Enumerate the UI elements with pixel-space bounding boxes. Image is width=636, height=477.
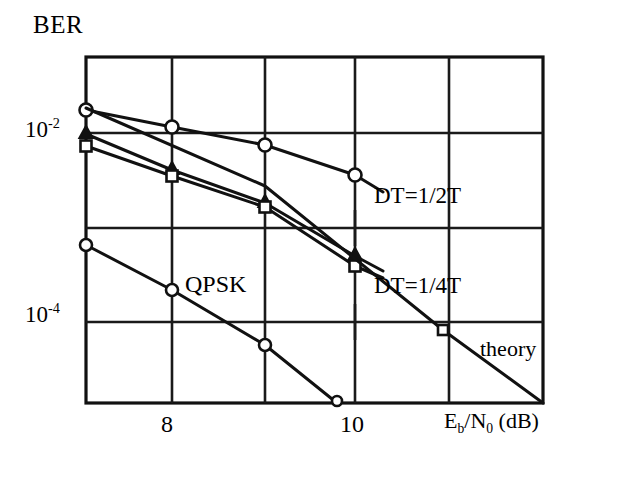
data-point-marker bbox=[167, 171, 178, 182]
x-tick-label-10: 10 bbox=[340, 412, 364, 436]
y-tick-label-1e-4: 10-4 bbox=[25, 303, 60, 326]
plot-canvas bbox=[0, 0, 636, 477]
y-tick-base: 10 bbox=[25, 302, 48, 327]
annotation-qpsk: QPSK bbox=[185, 272, 246, 296]
annotation-dt-half: DT=1/2T bbox=[374, 184, 461, 207]
data-point-marker bbox=[349, 169, 362, 182]
x-axis-title: Eb/N0 (dB) bbox=[444, 410, 539, 432]
series-line-theory bbox=[86, 108, 543, 403]
x-axis-title-slash-n: /N bbox=[464, 408, 486, 433]
y-tick-exponent: -2 bbox=[48, 115, 60, 131]
plot-frame bbox=[86, 57, 543, 403]
ber-chart-figure: BER 10-2 10-4 8 10 Eb/N0 (dB) DT=1/2T DT… bbox=[0, 0, 636, 477]
y-tick-base: 10 bbox=[25, 117, 48, 142]
annotation-dt-quarter: DT=1/4T bbox=[374, 274, 461, 297]
data-point-marker bbox=[81, 141, 92, 152]
series-line-dt-half bbox=[86, 110, 383, 192]
series-line-qpsk bbox=[86, 245, 337, 403]
y-tick-label-1e-2: 10-2 bbox=[25, 118, 60, 141]
y-tick-exponent: -4 bbox=[48, 300, 60, 316]
data-point-marker bbox=[80, 239, 92, 251]
data-point-marker bbox=[166, 284, 178, 296]
series-line-dt-quarter-sq bbox=[86, 146, 383, 278]
x-axis-title-e: E bbox=[444, 408, 457, 433]
data-point-marker bbox=[438, 325, 448, 335]
data-point-marker bbox=[332, 396, 342, 406]
data-point-marker bbox=[260, 202, 271, 213]
annotation-theory: theory bbox=[480, 338, 536, 360]
data-point-marker bbox=[259, 339, 271, 351]
x-tick-label-8: 8 bbox=[161, 412, 173, 436]
y-axis-title: BER bbox=[33, 12, 83, 37]
data-point-marker bbox=[166, 121, 179, 134]
data-point-marker bbox=[259, 139, 272, 152]
x-axis-title-unit: (dB) bbox=[493, 408, 539, 433]
series-line-dt-quarter-tri bbox=[86, 134, 383, 271]
